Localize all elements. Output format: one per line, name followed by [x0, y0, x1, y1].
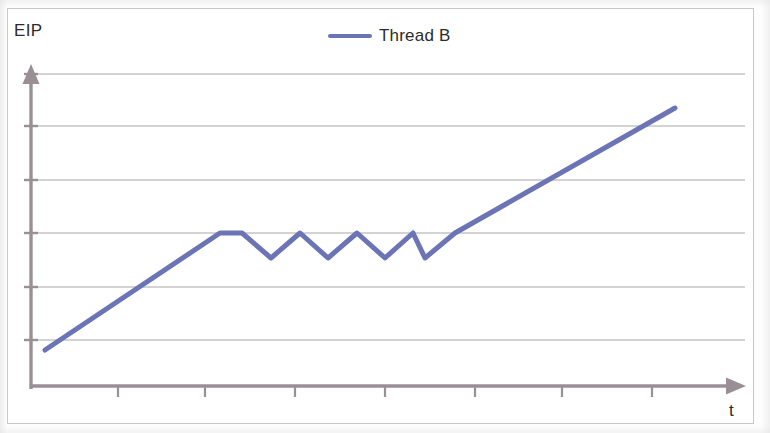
legend-color-swatch-thread-b [328, 34, 372, 38]
x-axis [31, 378, 746, 398]
chart-screenshot: EIP t Thread B [0, 0, 770, 433]
y-axis [23, 64, 40, 389]
x-axis-title: t [729, 401, 734, 421]
data-series-thread-b [45, 108, 675, 350]
plot-area [0, 0, 770, 433]
gridlines [31, 74, 745, 340]
x-axis-arrowhead [726, 378, 746, 395]
legend: Thread B [328, 26, 451, 46]
legend-label-thread-b: Thread B [379, 26, 451, 46]
y-axis-title: EIP [14, 21, 43, 41]
